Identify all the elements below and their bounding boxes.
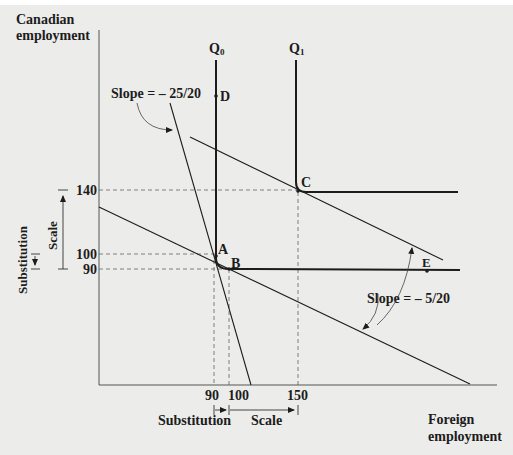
point-b-label: B — [231, 256, 240, 271]
point-d-marker — [214, 94, 218, 98]
isoquant-q0-label: Q0 — [209, 41, 225, 57]
x-tick-100: 100 — [228, 388, 249, 403]
point-c-marker — [296, 189, 300, 193]
x-tick-150: 150 — [287, 388, 308, 403]
isoquant-q1-label: Q1 — [289, 41, 305, 57]
y-scale-label: Scale — [45, 221, 60, 250]
y-tick-140: 140 — [76, 183, 97, 198]
point-d-label: D — [220, 89, 230, 104]
point-a-label: A — [218, 242, 229, 257]
point-e-label: E — [422, 255, 431, 270]
isoquant-q0 — [216, 60, 460, 270]
x-scale-label: Scale — [251, 413, 282, 428]
point-c-label: C — [301, 175, 311, 190]
x-axis-label-line1: Foreign — [428, 412, 475, 427]
x-tick-90: 90 — [205, 388, 219, 403]
y-tick-90: 90 — [83, 262, 97, 277]
isoquant-diagram: Canadian employment Foreign employment Q… — [0, 0, 513, 455]
y-substitution-bracket — [31, 254, 40, 269]
slope-steep-label: Slope = – 25/20 — [111, 86, 201, 101]
y-substitution-label: Substitution — [15, 225, 30, 294]
isocost-line-steep — [170, 103, 251, 385]
slope-flat-label: Slope = – 5/20 — [367, 291, 450, 306]
slope-steep-arrow — [137, 103, 172, 130]
y-tick-100: 100 — [76, 247, 97, 262]
slope-flat-arrow — [377, 248, 412, 325]
y-axis-label-line1: Canadian — [16, 12, 75, 27]
x-axis-label-line2: employment — [428, 429, 502, 444]
y-axis-label-line2: employment — [16, 28, 90, 43]
x-substitution-label: Substitution — [158, 413, 231, 428]
isoquant-q1 — [296, 60, 458, 192]
